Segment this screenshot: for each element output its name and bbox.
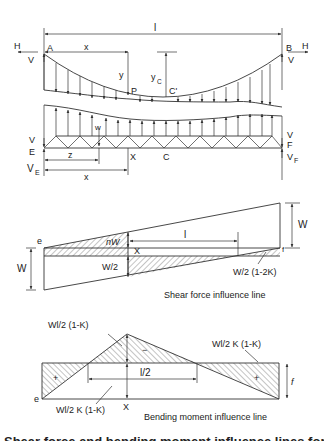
shear-l-label: l (184, 229, 186, 240)
v-left-label: V (28, 55, 34, 65)
bm-x-label: X (123, 402, 129, 412)
yc-label: y (151, 72, 156, 82)
shear-w-left-label: W (17, 263, 27, 274)
y-ordinate-label: y (119, 70, 124, 80)
section-x-label: X (130, 152, 136, 162)
shear-f-label: f (282, 245, 285, 254)
yc-subscript: C (157, 78, 162, 85)
section-c-label: C (163, 152, 170, 162)
shear-influence-diagram: W W nW X W/2 l e f W/2 (1-2K) Shear forc… (17, 203, 308, 300)
bending-f-label: f (291, 377, 295, 387)
shear-e-label: e (37, 236, 42, 246)
bm-top-right-label: Wl/2 K (1-K) (212, 339, 261, 349)
x-lower-dim-label: x (84, 172, 89, 182)
plus-left: + (53, 373, 58, 383)
support-a-label: A (47, 43, 53, 53)
ve-bottom-label: V (27, 163, 34, 174)
ve-top-label: V (29, 135, 35, 145)
w2-label: W/2 (102, 262, 118, 272)
ve-bottom-sub: E (35, 169, 40, 176)
vf-top-label: V (287, 130, 293, 140)
shear-caption: Shear force influence line (164, 290, 266, 300)
w2-1-2k-label: W/2 (1-2K) (233, 267, 277, 277)
vf-bottom-label: V (287, 152, 293, 162)
half-l-label: l/2 (140, 367, 151, 378)
ve-top-sub: E (29, 147, 35, 157)
bending-caption: Bending moment influence line (144, 412, 267, 422)
bending-influence-diagram: l/2 + − + f Wl/2 (1-K) Wl/2 K (1-K) Wl/2… (34, 320, 295, 422)
bm-top-left-label: Wl/2 (1-K) (48, 320, 89, 330)
x-dim-label: x (84, 42, 89, 52)
nw-label: nW (106, 237, 121, 247)
bm-e-label: e (34, 394, 39, 404)
v-right-label: V (288, 55, 294, 65)
minus-center: − (142, 345, 147, 355)
stiffening-truss (44, 136, 282, 148)
suspension-bridge-diagram: l H V A H V B x y P y C C' (0, 0, 324, 441)
vf-top-sub: F (287, 140, 293, 150)
figure-caption-cropped: Shear force and bending moment influence… (4, 434, 324, 441)
svg-text:Shear force and bending moment: Shear force and bending moment influence… (4, 434, 324, 441)
shear-w-right-label: W (298, 219, 308, 230)
hanger-load-arrows (56, 63, 270, 105)
support-b-label: B (286, 43, 292, 53)
vf-bottom-sub: F (294, 157, 298, 164)
h-right-label: H (302, 41, 309, 51)
span-label: l (154, 22, 156, 33)
z-dim-label: z (68, 150, 73, 160)
point-c-prime-label: C' (169, 86, 177, 96)
shear-x-label: X (134, 246, 140, 256)
w-label: w (94, 123, 101, 132)
plus-right: + (254, 373, 259, 383)
cable-diagram: l H V A H V B x y P y C C' (14, 22, 309, 182)
bm-bottom-label: Wl/2 K (1-K) (56, 405, 105, 415)
h-left-label: H (14, 41, 21, 51)
